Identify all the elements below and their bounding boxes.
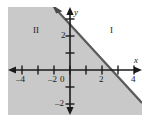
- x-tick-label-pos4: 4: [131, 75, 136, 84]
- quadrant-label-two: II: [33, 26, 39, 35]
- y-tick-label-neg2: –2: [55, 99, 64, 108]
- origin-label: 0: [60, 75, 65, 84]
- coordinate-plane-svg: [0, 0, 150, 122]
- quadrant-label-one: I: [110, 26, 113, 35]
- y-axis-name-label: y: [74, 8, 78, 17]
- x-tick-label-pos2: 2: [99, 75, 104, 84]
- inequality-graph-figure: –4 –2 2 4 2 –2 0 x y II I: [0, 0, 150, 122]
- x-tick-label-neg4: –4: [16, 75, 25, 84]
- x-axis-name-label: x: [134, 56, 138, 65]
- x-tick-label-neg2: –2: [48, 75, 57, 84]
- y-tick-label-pos2: 2: [61, 31, 66, 40]
